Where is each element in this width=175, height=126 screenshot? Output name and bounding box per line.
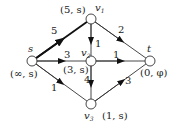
arrow-icon: [91, 81, 122, 104]
weight-v1-v2: 1: [95, 38, 101, 49]
node-s-name: s: [28, 43, 33, 54]
node-v3-tag: (1, s): [102, 110, 128, 121]
weight-v2-t: 1: [113, 49, 119, 60]
node-t-name: t: [147, 43, 152, 54]
network-diagram: s v1 v2 t v3 (5, s) (∞, s) (3, s) (0, φ)…: [0, 0, 175, 126]
node-v1-tag: (5, s): [60, 4, 86, 15]
weight-v3-t: 3: [125, 75, 131, 86]
node-v3-name: v3: [84, 110, 94, 122]
node-v3: [86, 99, 96, 109]
node-v1-name: v1: [95, 2, 104, 14]
node-s: [27, 56, 37, 66]
weight-v1-t: 2: [118, 24, 124, 35]
node-s-tag: (∞, s): [10, 68, 38, 79]
node-t: [145, 56, 155, 66]
weight-s-v3: 1: [51, 82, 57, 93]
node-t-tag: (0, φ): [140, 67, 168, 78]
weight-v2-v3: 4: [84, 74, 90, 85]
node-v1: [86, 14, 96, 24]
weight-s-v2: 3: [64, 49, 70, 60]
node-v2-name: v2: [81, 47, 91, 59]
weight-s-v1: 5: [51, 25, 57, 36]
